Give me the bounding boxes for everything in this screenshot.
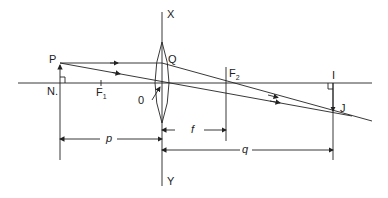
label-p-point: P [49,54,56,65]
label-n: N. [47,86,58,97]
label-q-distance: q [242,144,248,155]
label-i: I [332,70,335,81]
lens-diagram: X Y P N. F1 F2 0 Q I J p f q [0,0,388,198]
label-x: X [167,9,174,20]
diagram-canvas [0,0,388,198]
label-j: J [340,103,346,114]
label-q-point: Q [168,54,177,65]
label-o: 0 [138,95,144,106]
label-f-distance: f [191,124,194,135]
label-f2: F2 [229,68,240,81]
label-f1: F1 [96,87,107,100]
label-y: Y [167,176,174,187]
label-p-distance: p [106,133,112,144]
